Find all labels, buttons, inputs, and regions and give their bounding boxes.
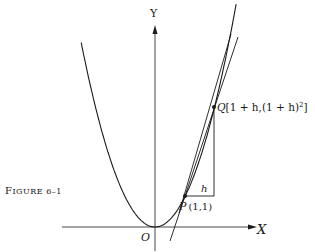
x-axis-label: X: [256, 222, 267, 237]
point-q-coords-end: ]: [304, 101, 308, 113]
increment-label: h: [201, 183, 207, 194]
point-q-label: Q[1 + h,(1 + h)2]: [217, 101, 308, 114]
y-axis-arrow-icon: [153, 25, 158, 34]
figure-caption: FIGURE 6–1: [5, 185, 62, 196]
origin-label: O: [141, 231, 150, 244]
x-axis-arrow-icon: [248, 225, 257, 230]
point-p: [183, 194, 187, 198]
parabola-figure: Y X O h P(1,1) Q[1 + h,(1 + h)2] FIGURE …: [0, 0, 315, 252]
y-axis-label: Y: [149, 7, 158, 20]
point-p-name: P: [178, 200, 187, 213]
point-q: [212, 105, 216, 109]
point-p-label: P(1,1): [178, 200, 212, 213]
point-q-coords: [1 + h,(1 + h): [226, 101, 299, 113]
parabola-curve: [81, 4, 236, 227]
point-p-coords: (1,1): [188, 201, 212, 212]
